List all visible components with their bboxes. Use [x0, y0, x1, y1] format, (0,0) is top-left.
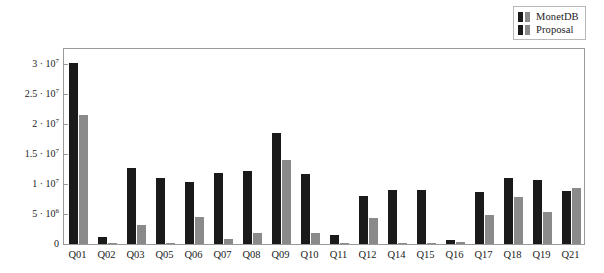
x-axis-label: Q01 [63, 248, 92, 261]
bar-group [98, 49, 117, 244]
bar [369, 218, 378, 244]
bar-group [446, 49, 465, 244]
bar [514, 197, 523, 244]
x-axis-label: Q10 [295, 248, 324, 261]
bar [456, 242, 465, 244]
bar [446, 240, 455, 244]
y-tick-label: 1 · 107 [32, 177, 59, 190]
bar-group [475, 49, 494, 244]
bar [359, 196, 368, 244]
bar [214, 173, 223, 244]
bar [272, 133, 281, 244]
bar [311, 233, 320, 244]
bar-group [330, 49, 349, 244]
bar-group [301, 49, 320, 244]
x-axis-label: Q03 [121, 248, 150, 261]
chart-legend: MonetDB Proposal [513, 6, 586, 40]
bar [417, 190, 426, 244]
bar [108, 243, 117, 245]
bar [427, 243, 436, 244]
bar-group [533, 49, 552, 244]
bar [98, 237, 107, 244]
x-axis-label: Q11 [324, 248, 353, 261]
x-axis-label: Q12 [353, 248, 382, 261]
bar-series-container [64, 49, 586, 244]
x-axis-label: Q09 [266, 248, 295, 261]
bar-group [185, 49, 204, 244]
bar-group [272, 49, 291, 244]
bar [253, 233, 262, 244]
y-tick-label: 2 · 107 [32, 117, 59, 130]
x-axis-label: Q07 [208, 248, 237, 261]
bar [504, 178, 513, 244]
legend-entry-monetdb: MonetDB [518, 10, 579, 23]
bar [156, 178, 165, 244]
bar-group [243, 49, 262, 244]
bar [166, 243, 175, 244]
y-tick-label: 2.5 · 107 [25, 87, 59, 100]
bar [137, 225, 146, 244]
plot-area: 05 · 1061 · 1071.5 · 1072 · 1072.5 · 107… [63, 48, 585, 245]
bar-group [562, 49, 581, 244]
bar [388, 190, 397, 244]
bar [398, 243, 407, 244]
bar [224, 239, 233, 244]
bar-group [214, 49, 233, 244]
y-tick-mark [64, 244, 68, 245]
y-tick-label: 3 · 107 [32, 57, 59, 70]
bar-group [156, 49, 175, 244]
bar-group [417, 49, 436, 244]
bar [330, 235, 339, 244]
bar [185, 182, 194, 244]
x-axis-label: Q14 [382, 248, 411, 261]
bar [195, 217, 204, 244]
legend-label-proposal: Proposal [536, 24, 574, 35]
y-tick-label: 0 [54, 237, 59, 250]
bar [282, 160, 291, 244]
bar [243, 171, 252, 244]
bar [533, 180, 542, 244]
x-axis-label: Q15 [411, 248, 440, 261]
x-axis-label: Q06 [179, 248, 208, 261]
x-axis-label: Q08 [237, 248, 266, 261]
bar [485, 215, 494, 244]
legend-entry-proposal: Proposal [518, 23, 579, 36]
bar [562, 191, 571, 244]
x-axis-label: Q02 [92, 248, 121, 261]
bar-group [69, 49, 88, 244]
legend-swatch-monetdb-icon [518, 12, 531, 22]
x-axis-label: Q05 [150, 248, 179, 261]
x-axis-label: Q16 [440, 248, 469, 261]
bar [79, 115, 88, 244]
bar [475, 192, 484, 244]
bar-group [359, 49, 378, 244]
bar [127, 168, 136, 244]
legend-swatch-proposal-icon [518, 25, 531, 35]
y-tick-label: 1.5 · 107 [25, 147, 59, 160]
bar-group [127, 49, 146, 244]
x-axis-label: Q18 [498, 248, 527, 261]
bar [340, 243, 349, 244]
bar [572, 188, 581, 244]
bar [543, 212, 552, 244]
bar [301, 174, 310, 244]
legend-label-monetdb: MonetDB [536, 11, 579, 22]
bar-group [504, 49, 523, 244]
bar-group [388, 49, 407, 244]
x-axis-label: Q17 [469, 248, 498, 261]
x-axis-label: Q21 [556, 248, 585, 261]
y-tick-label: 5 · 106 [32, 207, 59, 220]
x-axis-label: Q19 [527, 248, 556, 261]
bar-chart-figure: MonetDB Proposal Number of read blocks 0… [0, 0, 604, 273]
bar [69, 63, 78, 244]
